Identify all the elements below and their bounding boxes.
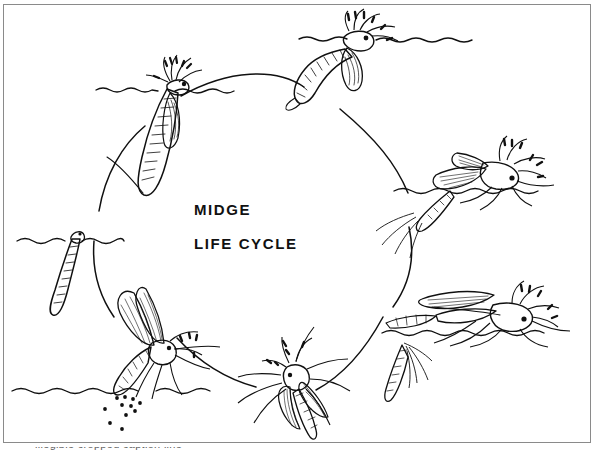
title-line-1: MIDGE bbox=[194, 201, 251, 218]
cycle-arrows bbox=[94, 74, 412, 390]
laying-eye bbox=[167, 346, 171, 350]
arc-lowerleft-to-left bbox=[94, 241, 114, 317]
water-line-top-left bbox=[299, 37, 347, 41]
egg bbox=[103, 407, 107, 411]
egg bbox=[131, 397, 135, 401]
wing-veins-upper bbox=[459, 156, 484, 168]
flying-legs bbox=[238, 327, 350, 425]
life-cycle-illustration: MIDGE LIFE CYCLE bbox=[4, 5, 591, 443]
water-line-left-right bbox=[82, 239, 124, 244]
resting-wing-veins bbox=[428, 296, 488, 307]
emerging-adult-eye bbox=[509, 175, 514, 180]
stage-adult-emerging bbox=[376, 136, 554, 258]
resting-shed-skin bbox=[386, 315, 436, 328]
stage-female-laying-eggs bbox=[12, 287, 220, 430]
stage-adult-resting bbox=[382, 281, 570, 401]
stage-pupa-hanging bbox=[96, 55, 234, 195]
arc-left-to-upperleft bbox=[99, 126, 145, 211]
eggs-cluster bbox=[103, 395, 142, 431]
egg bbox=[129, 404, 133, 408]
larva-head bbox=[71, 232, 85, 243]
emerging-pupa-wingcase bbox=[342, 48, 363, 91]
pupa-thoracic-horns bbox=[146, 55, 202, 82]
emerging-adult-legs bbox=[460, 181, 554, 210]
exuvia-filaments bbox=[404, 343, 432, 388]
arc-top-to-right bbox=[340, 109, 408, 193]
emerging-pupal-skin bbox=[416, 191, 454, 231]
water-line-lowerleft bbox=[12, 389, 138, 394]
emerging-pupal-skin-filaments bbox=[376, 213, 422, 258]
egg bbox=[120, 427, 124, 431]
stage-pupa-emerging bbox=[286, 9, 472, 110]
emerging-pupa-tail bbox=[286, 98, 300, 110]
egg bbox=[108, 421, 112, 425]
title-line-2: LIFE CYCLE bbox=[194, 235, 298, 252]
stage-larva bbox=[17, 232, 124, 315]
resting-legs bbox=[434, 321, 570, 347]
water-line-pupa-hanging-right bbox=[175, 89, 234, 93]
emerging-pupa-head bbox=[343, 31, 373, 51]
exuvia-body bbox=[385, 345, 408, 401]
resting-abdomen bbox=[436, 309, 496, 323]
stage-adult-flying bbox=[238, 327, 350, 439]
larva-eye bbox=[78, 232, 81, 235]
egg bbox=[133, 409, 137, 413]
pupa-eye bbox=[182, 82, 186, 86]
arc-right-to-lowerright bbox=[393, 227, 412, 307]
pupa-tail-line bbox=[107, 157, 143, 193]
emerging-pupa-eye bbox=[364, 36, 369, 41]
egg bbox=[124, 413, 128, 417]
water-line-lowerleft-right bbox=[156, 389, 210, 394]
laying-thorax bbox=[148, 340, 176, 365]
water-line-right bbox=[394, 189, 538, 194]
laying-antenna-bristles bbox=[180, 333, 197, 357]
stage-pupal-exuvia bbox=[385, 343, 432, 401]
arc-lowerright-to-bottom bbox=[316, 317, 383, 390]
flying-eye bbox=[288, 373, 292, 377]
cropped-caption-strip: illegible cropped caption line bbox=[3, 447, 591, 459]
caption-text: illegible cropped caption line bbox=[35, 447, 182, 450]
egg bbox=[138, 401, 142, 405]
laying-abdomen bbox=[114, 347, 151, 395]
resting-antenna-bristles bbox=[521, 285, 557, 318]
water-line-pupa-hanging bbox=[96, 88, 158, 92]
wing-veins-lower bbox=[440, 172, 478, 188]
water-line-left bbox=[17, 239, 65, 244]
midge-life-cycle-figure: MIDGE LIFE CYCLE bbox=[3, 4, 591, 443]
egg bbox=[123, 395, 127, 399]
pupa-horn-bristles bbox=[154, 57, 191, 78]
resting-thorax bbox=[490, 303, 532, 331]
egg bbox=[120, 403, 124, 407]
egg bbox=[115, 396, 119, 400]
larva-body bbox=[50, 239, 80, 315]
resting-eye bbox=[521, 316, 526, 321]
